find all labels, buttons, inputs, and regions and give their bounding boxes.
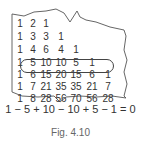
triangle-cell: 4 (26, 44, 40, 56)
triangle-cell: 1 (13, 31, 27, 43)
triangle-cell: 6 (39, 44, 53, 56)
triangle-cell: 3 (39, 31, 53, 43)
triangle-cell: 2 (26, 18, 40, 30)
alternating-sum-equation: 1 − 5 + 10 − 10 + 5 − 1 = 0 (0, 103, 141, 115)
triangle-cell: 3 (26, 31, 40, 43)
triangle-cell: 7 (26, 81, 40, 93)
highlight-oval (20, 59, 114, 73)
triangle-cell: 7 (101, 81, 115, 93)
triangle-cell: 1 (13, 81, 27, 93)
triangle-cell: 21 (85, 81, 99, 93)
triangle-cell: 1 (69, 44, 83, 56)
triangle-cell: 1 (13, 44, 27, 56)
triangle-cell: 35 (69, 81, 83, 93)
triangle-cell: 1 (39, 18, 53, 30)
triangle-cell: 35 (54, 81, 68, 93)
triangle-cell: 21 (39, 81, 53, 93)
triangle-cell: 1 (13, 18, 27, 30)
triangle-cell: 4 (54, 44, 68, 56)
triangle-cell: 1 (54, 31, 68, 43)
figure-caption: Fig. 4.10 (0, 127, 141, 138)
